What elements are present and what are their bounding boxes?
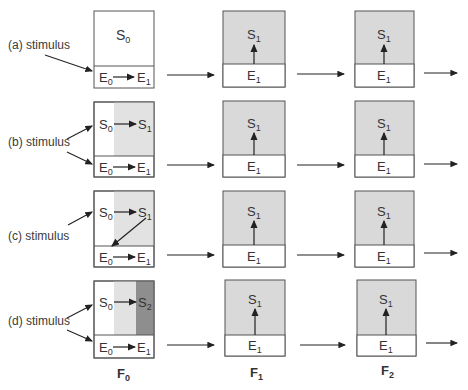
- state-s1: S1: [377, 28, 391, 44]
- state-s1: S1: [247, 28, 261, 44]
- state-e0: E0: [99, 251, 113, 267]
- state-e1: E1: [137, 161, 151, 177]
- state-s1: S1: [248, 293, 262, 309]
- state-s1: S1: [379, 293, 393, 309]
- state-e1: E1: [247, 69, 261, 85]
- state-e1: E1: [377, 250, 391, 266]
- stimulus-arrow: [67, 330, 92, 341]
- state-e1: E1: [137, 71, 151, 87]
- state-s0: S0: [99, 296, 113, 312]
- state-s1: S1: [247, 205, 261, 221]
- row-label-c: (c) stimulus: [8, 230, 69, 242]
- state-e1: E1: [377, 160, 391, 176]
- state-e1: E1: [247, 250, 261, 266]
- state-s1: S1: [377, 117, 391, 133]
- stimulus-arrow: [67, 152, 92, 164]
- state-s2: S2: [138, 296, 152, 312]
- stimulus-arrow: [68, 212, 92, 225]
- state-e0: E0: [99, 161, 113, 177]
- state-s0: S0: [99, 118, 113, 134]
- row-label-a: (a) stimulus: [8, 39, 70, 51]
- state-e1: E1: [247, 160, 261, 176]
- stimulus-arrow: [67, 305, 92, 318]
- state-e1: E1: [377, 69, 391, 85]
- state-s1: S1: [138, 206, 152, 222]
- state-s1: S1: [247, 117, 261, 133]
- state-e1: E1: [137, 251, 151, 267]
- column-label-f0: F0: [117, 367, 130, 383]
- state-e1: E1: [248, 339, 262, 355]
- column-label-f2: F2: [381, 364, 394, 380]
- state-s1: S1: [377, 205, 391, 221]
- state-e0: E0: [99, 71, 113, 87]
- diagram-canvas: [0, 0, 468, 390]
- state-s1: S1: [138, 118, 152, 134]
- column-label-f1: F1: [250, 366, 263, 382]
- row-label-d: (d) stimulus: [8, 315, 70, 327]
- state-e0: E0: [99, 341, 113, 357]
- state-s0: S0: [116, 28, 130, 45]
- state-e1: E1: [379, 339, 393, 355]
- state-s0: S0: [99, 206, 113, 222]
- row-label-b: (b) stimulus: [8, 136, 70, 148]
- stimulus-arrow: [45, 55, 92, 71]
- stimulus-arrow: [67, 126, 92, 139]
- state-e1: E1: [137, 341, 151, 357]
